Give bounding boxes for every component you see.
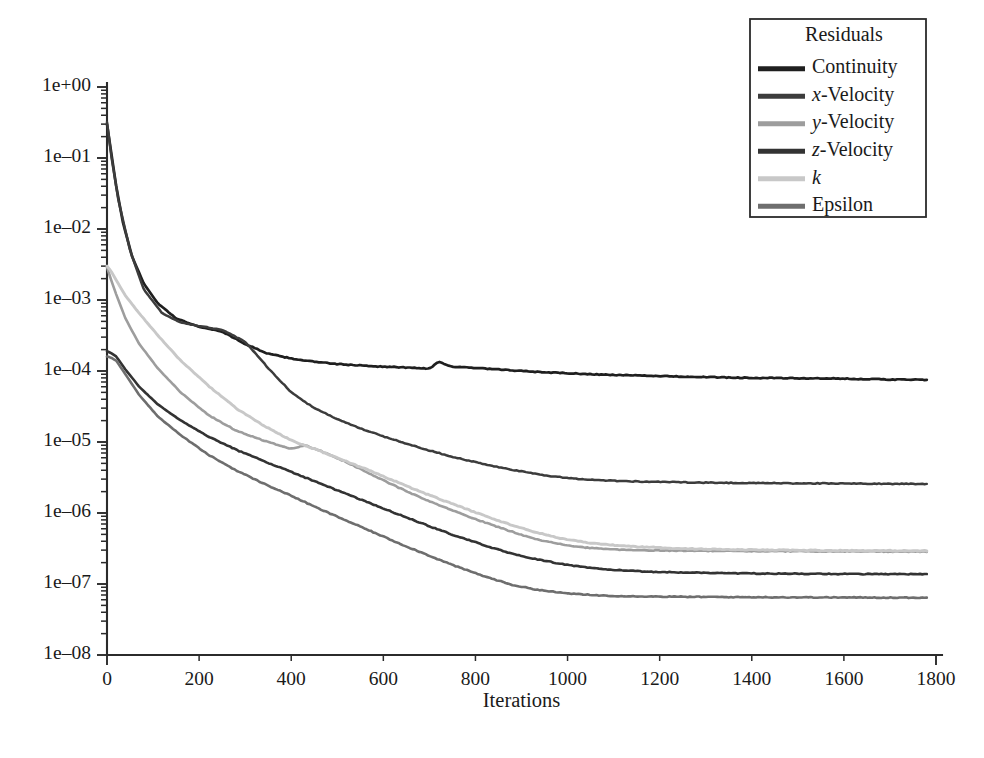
y-tick-label: 1e–05: [43, 429, 91, 450]
y-tick-label: 1e–06: [43, 500, 91, 521]
x-tick-label: 600: [369, 668, 398, 689]
y-tick-label: 1e–03: [43, 287, 91, 308]
x-tick-label: 1000: [548, 668, 587, 689]
x-tick-label: 1800: [917, 668, 956, 689]
y-tick-label: 1e–01: [43, 145, 91, 166]
legend-label-x-velocity[interactable]: x-Velocity: [811, 83, 894, 106]
legend-label-k[interactable]: k: [812, 165, 822, 187]
legend-title: Residuals: [805, 23, 883, 45]
legend-label-epsilon[interactable]: Epsilon: [812, 193, 873, 216]
x-axis-title: Iterations: [483, 689, 560, 711]
x-tick-label: 1600: [824, 668, 863, 689]
residuals-plot: 1e+001e–011e–021e–031e–041e–051e–061e–07…: [0, 0, 984, 758]
legend[interactable]: ResidualsContinuityx-Velocityy-Velocityz…: [750, 19, 926, 217]
y-tick-label: 1e–08: [43, 642, 91, 663]
x-tick-label: 1200: [640, 668, 679, 689]
legend-label-y-velocity[interactable]: y-Velocity: [810, 110, 894, 133]
y-tick-label: 1e–02: [43, 216, 91, 237]
y-tick-label: 1e+00: [42, 74, 91, 95]
x-tick-label: 800: [461, 668, 490, 689]
y-tick-label: 1e–04: [43, 358, 91, 379]
x-tick-label: 200: [184, 668, 213, 689]
x-tick-label: 400: [277, 668, 306, 689]
y-tick-label: 1e–07: [43, 571, 91, 592]
legend-label-z-velocity[interactable]: z-Velocity: [811, 138, 893, 161]
residuals-chart-svg: 1e+001e–011e–021e–031e–041e–051e–061e–07…: [0, 0, 984, 758]
x-tick-label: 1400: [732, 668, 771, 689]
x-tick-label: 0: [102, 668, 112, 689]
legend-label-continuity[interactable]: Continuity: [812, 55, 898, 78]
axis-titles-group: Iterations: [483, 689, 560, 711]
